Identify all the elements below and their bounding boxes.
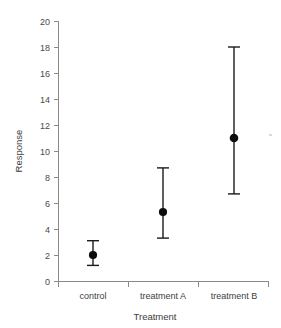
image-artifact-speck [269, 134, 272, 136]
y-tick-label-18: 18 [40, 43, 50, 53]
mean-marker-treatment-a [159, 208, 167, 216]
y-tick-label-0: 0 [45, 277, 50, 287]
y-tick-label-14: 14 [40, 95, 50, 105]
x-category-label-treatment-b: treatment B [211, 291, 258, 301]
y-axis-title: Response [13, 130, 24, 173]
x-axis-category-labels: control treatment A treatment B [79, 291, 257, 301]
mean-marker-treatment-b [230, 134, 239, 143]
error-bar-chart: 20 18 16 14 12 10 8 6 4 2 0 control trea… [0, 0, 281, 328]
x-category-label-treatment-a: treatment A [140, 291, 186, 301]
y-tick-label-12: 12 [40, 121, 50, 131]
y-tick-label-8: 8 [45, 173, 50, 183]
y-tick-label-20: 20 [40, 17, 50, 27]
mean-marker-control [89, 251, 97, 259]
y-tick-label-4: 4 [45, 225, 50, 235]
y-tick-label-2: 2 [45, 251, 50, 261]
y-tick-label-10: 10 [40, 147, 50, 157]
y-tick-label-16: 16 [40, 69, 50, 79]
y-tick-label-6: 6 [45, 199, 50, 209]
x-axis-title: Treatment [134, 311, 177, 322]
chart-canvas: 20 18 16 14 12 10 8 6 4 2 0 control trea… [0, 0, 281, 328]
x-category-label-control: control [79, 291, 106, 301]
